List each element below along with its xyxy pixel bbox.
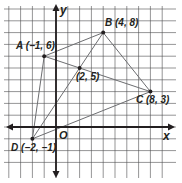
y-axis-up-arrow-icon (53, 4, 60, 11)
point-d (30, 137, 34, 141)
y-axis-down-arrow-icon (53, 171, 60, 178)
label-b: B (4, 8) (105, 17, 139, 28)
label-d: D (−2, −1) (11, 142, 57, 153)
x-axis-left-arrow-icon (6, 124, 13, 131)
point-c (148, 90, 152, 94)
coordinate-plane: y x O A (−1, 6) B (4, 8) C (8, 3) D (−2,… (0, 0, 182, 183)
label-a: A (−1, 6) (15, 40, 55, 51)
y-axis-label: y (59, 3, 68, 17)
point-a (42, 54, 46, 58)
label-midpoint: (2, 5) (76, 71, 100, 82)
point-midpoint (78, 66, 82, 70)
label-c: C (8, 3) (136, 94, 170, 105)
origin-label: O (59, 129, 68, 141)
x-axis-label: x (162, 129, 171, 143)
point-b (101, 31, 105, 35)
